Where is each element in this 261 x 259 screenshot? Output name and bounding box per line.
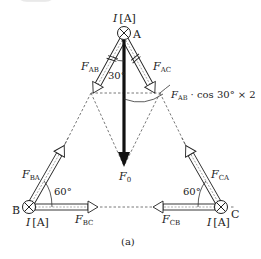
dashed-tip-ba	[65, 138, 68, 144]
node-A-current-label: I[A]	[112, 12, 136, 25]
node-B-symbol	[23, 201, 36, 214]
force-label-F0: F0	[118, 170, 131, 184]
force-diagram-svg: I[A] A B I[A] C I[A] FAB FAC FBA FCA FBC…	[0, 0, 261, 259]
node-B-label: B	[12, 204, 20, 217]
resultant-annotation: FAB · cos 30° × 2	[170, 89, 256, 102]
node-A-label: A	[132, 28, 142, 41]
arrow-F0-resultant	[118, 40, 130, 167]
annotation-leader	[160, 85, 170, 93]
node-A-symbol	[118, 27, 131, 40]
diagram-figure: I[A] A B I[A] C I[A] FAB FAC FBA FCA FBC…	[0, 0, 261, 259]
force-label-F-AB: FAB	[80, 60, 99, 74]
resultant-leader-arc	[124, 94, 163, 102]
node-B-current-label: I[A]	[25, 216, 49, 229]
figure-caption: (a)	[121, 236, 135, 247]
dashed-tip-ca	[182, 138, 185, 144]
node-C-current-label: I[A]	[206, 216, 230, 229]
node-C-label: C	[231, 208, 239, 221]
angle-label-B: 60°	[54, 186, 72, 197]
force-label-F-BA: FBA	[21, 168, 41, 182]
arrow-F-CB	[153, 201, 215, 213]
node-C-symbol	[215, 201, 228, 214]
force-label-F-CB: FCB	[161, 213, 180, 227]
force-label-F-BC: FBC	[74, 213, 93, 227]
force-label-F-AC: FAC	[152, 60, 171, 74]
dashed-parallelogram-right	[124, 93, 160, 166]
dashed-side-AB-lower	[65, 93, 91, 144]
angle-label-C: 60°	[183, 186, 201, 197]
angle-label-A: 30°	[108, 70, 126, 81]
arrow-F-BC	[35, 201, 98, 213]
dashed-parallelogram-left	[91, 93, 124, 166]
force-label-F-CA: FCA	[210, 168, 230, 182]
